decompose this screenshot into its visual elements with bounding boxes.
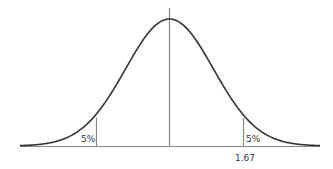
normal-distribution-diagram: 5% 5% 1.67: [0, 0, 333, 169]
right-tail-label: 5%: [246, 134, 261, 144]
left-tail-label: 5%: [81, 134, 96, 144]
critical-value-label: 1.67: [235, 153, 255, 163]
